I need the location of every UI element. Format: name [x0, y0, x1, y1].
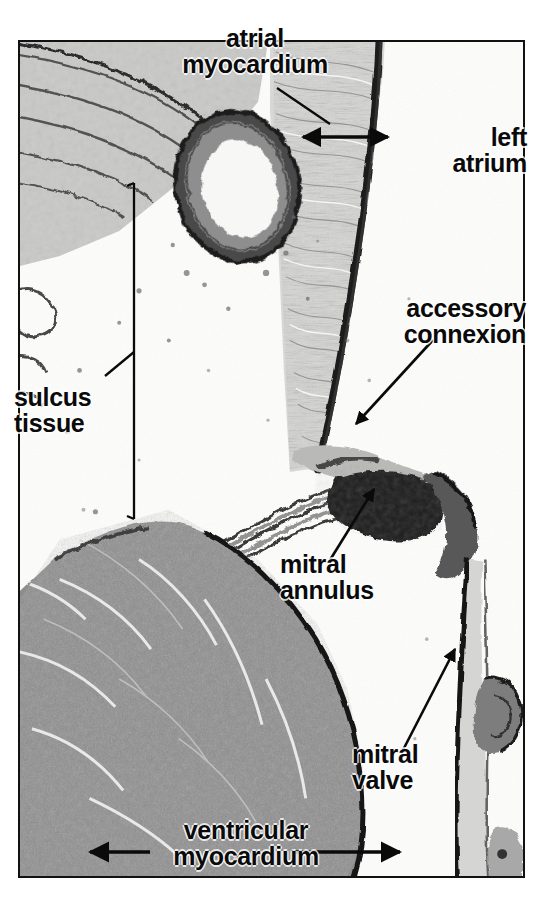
label-left-atrium: left atrium [395, 125, 527, 176]
label-mitral-valve: mitral valve [352, 742, 482, 793]
label-ventricular-myocardium: ventricular myocardium [96, 818, 396, 869]
label-atrial-myocardium: atrial myocardium [150, 26, 360, 77]
label-accessory-connexion: accessory connexion [330, 296, 526, 347]
figure-root: atrial myocardium left atrium accessory … [0, 0, 549, 904]
label-mitral-annulus: mitral annulus [280, 552, 430, 603]
label-sulcus-tissue: sulcus tissue [14, 385, 144, 436]
